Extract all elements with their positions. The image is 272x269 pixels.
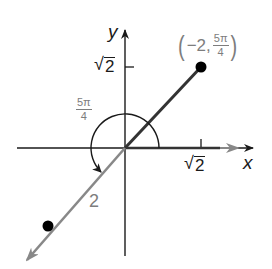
negative-r-ray (27, 148, 125, 260)
polar-point-diagram: y √ 2 √ 2 x ( −2, 5π 4 ) 5π 4 2 (0, 0, 272, 269)
open-paren: ( (178, 32, 185, 59)
distance-label: 2 (89, 192, 99, 210)
close-paren: ) (231, 32, 238, 59)
plotted-point (196, 62, 207, 73)
x-tick-label: √ 2 (184, 154, 205, 174)
terminal-side-ray (125, 67, 201, 148)
point-label: ( −2, 5π 4 ) (178, 33, 237, 58)
y-tick-label: √ 2 (94, 55, 115, 75)
point-r: −2, (187, 37, 211, 54)
reflected-point (43, 221, 54, 232)
angle-label: 5π 4 (76, 97, 92, 122)
y-axis-label: y (108, 22, 118, 41)
point-theta: 5π 4 (213, 33, 229, 58)
x-axis-label: x (243, 153, 253, 172)
radicand: 2 (104, 57, 115, 75)
radicand: 2 (194, 156, 205, 174)
radical-sign: √ (184, 154, 194, 172)
radical-sign: √ (94, 55, 104, 73)
x-axis (17, 139, 253, 148)
